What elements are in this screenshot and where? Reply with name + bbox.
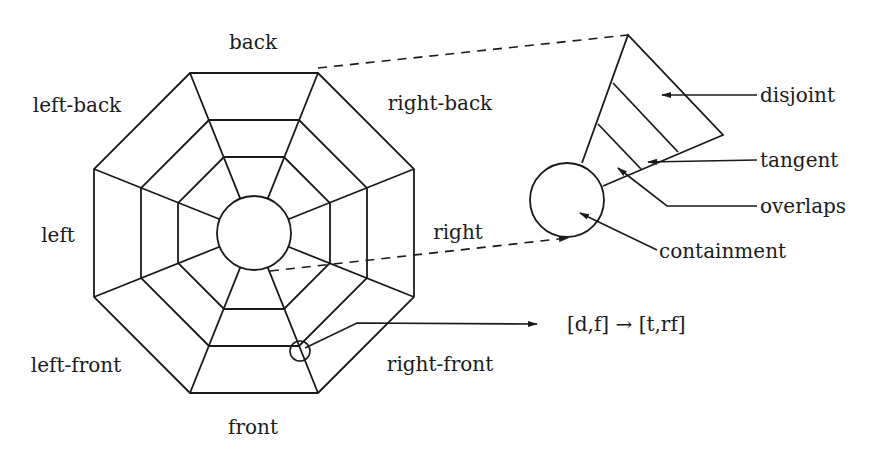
label-right-back: right-back [388,93,492,113]
label-containment: containment [659,241,786,261]
direction-octagon [94,73,414,393]
sector-circle [530,163,604,237]
arrow-containment [580,213,657,250]
dashed-line [270,238,568,271]
label-back: back [229,32,277,52]
octagon-spoke [268,73,318,199]
label-disjoint: disjoint [760,85,835,105]
inner-circle [217,196,291,270]
octagon-spoke [190,267,240,393]
label-front: front [228,417,278,437]
label-right-front: right-front [387,354,493,374]
octagon-spoke [288,247,414,297]
label-right: right [433,222,483,242]
octagon-spoke [288,169,414,219]
label-overlaps: overlaps [760,196,846,216]
octagon-spoke [190,73,240,199]
transition-arrow [305,323,537,348]
relation-arrows [580,95,757,250]
octagon-spoke [94,247,220,297]
direction-relations-diagram: back right-back right right-front front … [0,0,875,451]
octagon-spoke [268,267,318,393]
arrow-overlaps [618,168,757,206]
label-tangent: tangent [760,150,838,170]
label-left-back: left-back [33,95,121,115]
label-left-front: left-front [31,355,121,375]
sector-divider [598,124,641,169]
transition-formula: [d,f] → [t,rf] [567,314,686,334]
sector-outline [582,35,723,186]
sector-divider [613,83,678,152]
octagon-spoke [94,169,220,219]
dashed-line [318,35,628,68]
label-left: left [41,225,75,245]
